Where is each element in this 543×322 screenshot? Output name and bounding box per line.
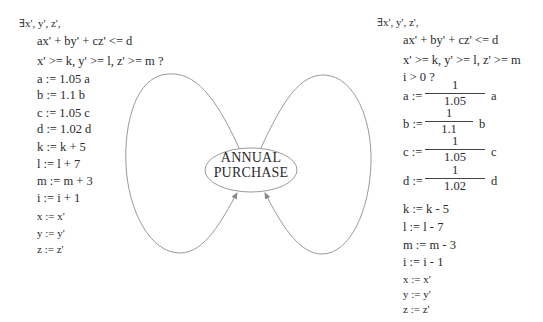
left-update: z := z' [37, 242, 64, 256]
right-update: z := z' [403, 302, 430, 316]
right-update: y := y' [403, 287, 431, 301]
right-update: k := k - 5 [403, 202, 449, 216]
fraction-numerator: 1 [425, 107, 473, 120]
fraction: 1 1.1 [425, 107, 473, 136]
right-guard-constraint2: x' >= k, y' >= l, z' >= m [403, 53, 521, 67]
left-guard-quantifier: ∃x', y', z', [19, 16, 61, 30]
fraction-rhs: d [491, 174, 497, 189]
right-guard-quantifier: ∃x', y', z', [377, 15, 419, 29]
right-update: m := m - 3 [403, 238, 456, 252]
fraction-numerator: 1 [425, 79, 485, 92]
left-update: m := m + 3 [37, 174, 93, 188]
fraction-rhs: c [491, 145, 497, 160]
fraction-rhs: a [491, 89, 497, 104]
left-update: a := 1.05 a [37, 72, 90, 86]
left-guard-constraint1: ax' + by' + cz' <= d [37, 34, 132, 48]
left-guard-constraint2: x' >= k, y' >= l, z' >= m ? [37, 54, 163, 68]
node-label-line2: PURCHASE [204, 165, 298, 180]
node-label: ANNUAL PURCHASE [204, 150, 298, 180]
left-update: y := y' [37, 226, 65, 240]
fraction-numerator: 1 [425, 135, 485, 148]
fraction-lhs: b := [403, 117, 423, 132]
right-update: l := l - 7 [403, 220, 443, 234]
left-update: k := k + 5 [37, 140, 86, 154]
right-update: x := x' [403, 272, 431, 286]
fraction-denominator: 1.02 [425, 180, 485, 193]
fraction: 1 1.05 [425, 135, 485, 164]
right-update: i := i - 1 [403, 255, 443, 269]
fraction: 1 1.05 [425, 79, 485, 108]
right-fraction-update: d := 1 1.02 d [403, 164, 523, 198]
fraction-lhs: d := [403, 174, 423, 189]
fraction-lhs: c := [403, 145, 422, 160]
left-update: d := 1.02 d [37, 122, 91, 136]
diagram-canvas: ANNUAL PURCHASE ∃x', y', z', ax' + by' +… [0, 0, 543, 322]
fraction-numerator: 1 [425, 164, 485, 177]
left-update: b := 1.1 b [37, 88, 85, 102]
left-update: l := l + 7 [37, 157, 80, 171]
node-label-line1: ANNUAL [204, 150, 298, 165]
fraction-lhs: a := [403, 89, 422, 104]
left-update: c := 1.05 c [37, 106, 90, 120]
fraction-rhs: b [479, 117, 485, 132]
left-update: i := i + 1 [37, 191, 80, 205]
right-guard-constraint1: ax' + by' + cz' <= d [403, 33, 498, 47]
left-update: x := x' [37, 209, 65, 223]
fraction: 1 1.02 [425, 164, 485, 193]
